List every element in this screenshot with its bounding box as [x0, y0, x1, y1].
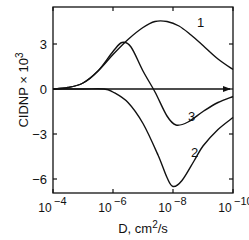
x-tick-label: 10	[38, 201, 52, 215]
x-tick-exponent: −10	[234, 195, 249, 207]
curve-3	[53, 42, 233, 125]
y-tick-label: 0	[40, 82, 47, 97]
y-tick-label: −6	[32, 172, 47, 187]
x-tick-exponent: −4	[54, 195, 67, 207]
data-curves	[53, 21, 233, 187]
y-tick-label: 3	[40, 37, 47, 52]
x-tick-label: 10	[218, 201, 232, 215]
x-tick-label: 10	[158, 201, 172, 215]
x-tick-exponent: −8	[174, 195, 187, 207]
cidnp-chart: 30−3−610−410−610−810−10132D, cm2/sCIDNP …	[0, 0, 249, 240]
curve-label-1: 1	[197, 15, 204, 30]
curve-2	[53, 89, 233, 187]
plot-frame	[53, 7, 233, 193]
plot-axes	[53, 7, 233, 193]
curve-1	[53, 21, 233, 89]
y-axis-label: CIDNP × 103	[14, 52, 31, 128]
y-tick-label: −3	[32, 127, 47, 142]
curve-label-3: 3	[188, 109, 195, 124]
x-axis-label: D, cm2/s	[118, 219, 168, 236]
x-tick-exponent: −6	[114, 195, 127, 207]
x-tick-label: 10	[98, 201, 112, 215]
curve-label-2: 2	[191, 145, 198, 160]
